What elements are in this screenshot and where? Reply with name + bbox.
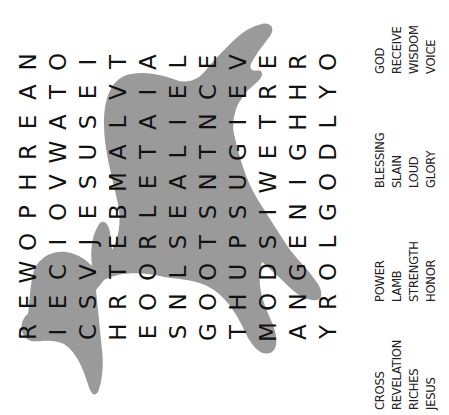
grid-letter[interactable]: L <box>163 47 193 77</box>
grid-letter[interactable]: T <box>193 137 223 167</box>
grid-letter[interactable]: I <box>43 317 73 347</box>
grid-letter[interactable]: L <box>103 107 133 137</box>
grid-letter[interactable]: U <box>223 257 253 287</box>
grid-letter[interactable]: V <box>73 257 103 287</box>
grid-letter[interactable]: R <box>283 47 313 77</box>
grid-letter[interactable]: N <box>13 47 43 77</box>
grid-letter[interactable]: C <box>73 317 103 347</box>
grid-letter[interactable]: O <box>43 47 73 77</box>
grid-letter[interactable]: J <box>73 227 103 257</box>
grid-letter[interactable]: O <box>253 287 283 317</box>
grid-letter[interactable]: S <box>253 227 283 257</box>
grid-letter[interactable]: A <box>283 317 313 347</box>
grid-letter[interactable]: P <box>223 227 253 257</box>
grid-letter[interactable]: R <box>313 287 343 317</box>
grid-letter[interactable]: I <box>163 107 193 137</box>
grid-letter[interactable]: A <box>133 47 163 77</box>
grid-letter[interactable]: E <box>133 317 163 347</box>
grid-letter[interactable]: T <box>133 137 163 167</box>
grid-letter[interactable]: E <box>253 137 283 167</box>
grid-letter[interactable]: I <box>73 47 103 77</box>
grid-letter[interactable]: B <box>103 197 133 227</box>
grid-letter[interactable]: A <box>13 77 43 107</box>
grid-letter[interactable]: H <box>103 317 133 347</box>
grid-letter[interactable]: N <box>283 197 313 227</box>
grid-letter[interactable]: P <box>13 197 43 227</box>
grid-letter[interactable]: R <box>253 77 283 107</box>
grid-letter[interactable]: L <box>133 197 163 227</box>
grid-letter[interactable]: I <box>133 77 163 107</box>
grid-letter[interactable]: G <box>283 257 313 287</box>
grid-letter[interactable]: O <box>193 257 223 287</box>
grid-letter[interactable]: S <box>163 317 193 347</box>
grid-letter[interactable]: L <box>313 227 343 257</box>
grid-letter[interactable]: C <box>43 257 73 287</box>
grid-letter[interactable]: D <box>253 257 283 287</box>
grid-letter[interactable]: O <box>313 167 343 197</box>
grid-letter[interactable]: H <box>283 77 313 107</box>
grid-letter[interactable]: Y <box>313 317 343 347</box>
grid-letter[interactable]: E <box>253 47 283 77</box>
grid-letter[interactable]: E <box>13 287 43 317</box>
grid-letter[interactable]: O <box>133 257 163 287</box>
grid-letter[interactable]: E <box>13 107 43 137</box>
grid-letter[interactable]: I <box>283 167 313 197</box>
grid-letter[interactable]: G <box>313 197 343 227</box>
grid-letter[interactable]: A <box>163 167 193 197</box>
grid-letter[interactable]: E <box>223 77 253 107</box>
grid-letter[interactable]: V <box>223 47 253 77</box>
grid-letter[interactable]: T <box>253 107 283 137</box>
grid-letter[interactable]: S <box>163 227 193 257</box>
grid-letter[interactable]: W <box>13 257 43 287</box>
grid-letter[interactable]: A <box>103 137 133 167</box>
grid-letter[interactable]: O <box>313 47 343 77</box>
grid-letter[interactable]: C <box>193 77 223 107</box>
grid-letter[interactable]: E <box>73 197 103 227</box>
grid-letter[interactable]: M <box>253 317 283 347</box>
grid-letter[interactable]: T <box>43 77 73 107</box>
grid-letter[interactable]: T <box>103 257 133 287</box>
grid-letter[interactable]: V <box>103 77 133 107</box>
grid-letter[interactable]: N <box>283 287 313 317</box>
grid-letter[interactable]: L <box>163 257 193 287</box>
grid-letter[interactable]: E <box>103 227 133 257</box>
grid-letter[interactable]: O <box>193 287 223 317</box>
grid-letter[interactable]: E <box>43 287 73 317</box>
grid-letter[interactable]: R <box>13 317 43 347</box>
grid-letter[interactable]: E <box>163 197 193 227</box>
grid-letter[interactable]: W <box>253 167 283 197</box>
grid-letter[interactable]: E <box>193 47 223 77</box>
grid-letter[interactable]: R <box>103 287 133 317</box>
grid-letter[interactable]: E <box>163 77 193 107</box>
grid-letter[interactable]: O <box>133 287 163 317</box>
grid-letter[interactable]: N <box>193 107 223 137</box>
grid-letter[interactable]: G <box>193 317 223 347</box>
grid-letter[interactable]: E <box>73 77 103 107</box>
grid-letter[interactable]: V <box>43 167 73 197</box>
grid-letter[interactable]: Y <box>313 77 343 107</box>
grid-letter[interactable]: T <box>223 317 253 347</box>
grid-letter[interactable]: R <box>133 227 163 257</box>
grid-letter[interactable]: L <box>163 137 193 167</box>
grid-letter[interactable]: A <box>133 107 163 137</box>
grid-letter[interactable]: S <box>73 107 103 137</box>
grid-letter[interactable]: N <box>163 287 193 317</box>
grid-letter[interactable]: S <box>73 287 103 317</box>
grid-letter[interactable]: G <box>223 137 253 167</box>
grid-letter[interactable]: G <box>283 137 313 167</box>
grid-letter[interactable]: I <box>43 227 73 257</box>
grid-letter[interactable]: L <box>313 107 343 137</box>
grid-letter[interactable]: O <box>13 227 43 257</box>
grid-letter[interactable]: W <box>43 137 73 167</box>
grid-letter[interactable]: T <box>193 227 223 257</box>
grid-letter[interactable]: I <box>253 197 283 227</box>
grid-letter[interactable]: M <box>103 167 133 197</box>
grid-letter[interactable]: O <box>43 197 73 227</box>
grid-letter[interactable]: S <box>193 197 223 227</box>
grid-letter[interactable]: H <box>13 167 43 197</box>
grid-letter[interactable]: U <box>223 167 253 197</box>
grid-letter[interactable]: S <box>223 197 253 227</box>
grid-letter[interactable]: E <box>283 227 313 257</box>
grid-letter[interactable]: A <box>43 107 73 137</box>
grid-letter[interactable]: D <box>313 137 343 167</box>
